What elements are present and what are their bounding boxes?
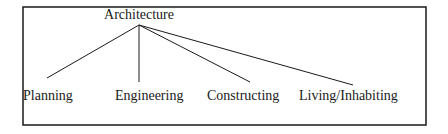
child-node-engineering: Engineering [115, 88, 183, 103]
edge-to-constructing [139, 25, 250, 82]
root-node-architecture: Architecture [104, 7, 174, 22]
child-node-constructing: Constructing [207, 88, 279, 103]
diagram-frame [23, 7, 426, 125]
edge-to-living-inhabiting [139, 25, 353, 85]
tree-edges [47, 25, 353, 85]
architecture-tree-diagram: Architecture Planning Engineering Constr… [0, 0, 448, 134]
child-node-planning: Planning [23, 88, 73, 103]
child-node-living-inhabiting: Living/Inhabiting [299, 88, 398, 103]
edge-to-planning [47, 25, 139, 78]
